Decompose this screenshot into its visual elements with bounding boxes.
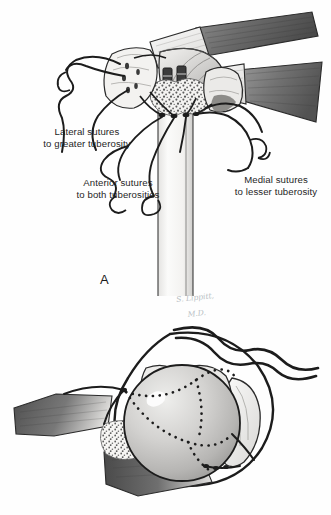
greater-tuberosity-fragment	[104, 48, 157, 109]
lateral-muscle-wedge	[14, 394, 112, 436]
prosthetic-head-sphere	[124, 365, 240, 481]
signature-credential-a: M.D.	[170, 307, 225, 321]
anterior-suture-loop	[110, 196, 161, 215]
superior-muscle-belly	[196, 12, 318, 56]
panel-b: Medial cerclage suture B S. Lippitt, M.D…	[0, 320, 331, 515]
panel-b-illustration	[0, 320, 331, 515]
medial-suture-strands	[196, 103, 262, 171]
figure-root: Lateral sutures to greater tuberosity An…	[0, 0, 331, 515]
signature-name-a: S. Lippitt,	[168, 291, 223, 305]
panel-letter-a: A	[100, 272, 109, 287]
panel-a-illustration	[0, 0, 331, 320]
panel-a: Lateral sutures to greater tuberosity An…	[0, 0, 331, 320]
